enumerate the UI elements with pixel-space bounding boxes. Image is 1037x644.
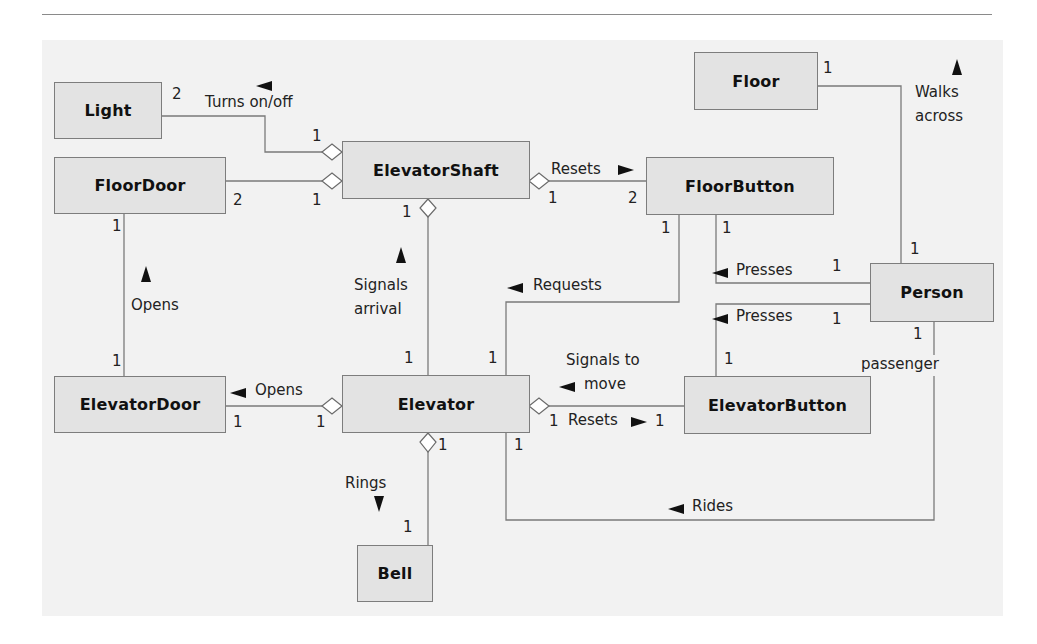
association-label-resets: Resets — [551, 160, 601, 178]
direction-arrow-right-icon — [631, 417, 647, 427]
class-name: ElevatorShaft — [373, 161, 499, 180]
multiplicity: 1 — [402, 204, 412, 220]
multiplicity: 1 — [722, 220, 732, 236]
class-name: Bell — [378, 564, 413, 583]
class-floor-door[interactable]: FloorDoor — [54, 157, 226, 214]
multiplicity: 2 — [233, 192, 243, 208]
multiplicity: 1 — [548, 190, 558, 206]
association-label-arrival: arrival — [354, 300, 402, 318]
direction-arrow-up-icon — [141, 266, 151, 282]
multiplicity: 1 — [913, 326, 923, 342]
class-elevator-shaft[interactable]: ElevatorShaft — [342, 141, 530, 199]
association-label-opens: Opens — [255, 381, 303, 399]
multiplicity: 1 — [312, 128, 322, 144]
association-label-opens: Opens — [131, 296, 179, 314]
direction-arrow-left-icon — [712, 314, 728, 324]
multiplicity: 1 — [404, 350, 414, 366]
direction-arrow-left-icon — [559, 382, 575, 392]
class-elevator-door[interactable]: ElevatorDoor — [54, 376, 226, 433]
multiplicity: 1 — [112, 353, 122, 369]
diamond-icon — [529, 173, 549, 189]
direction-arrow-right-icon — [618, 165, 634, 175]
class-elevator-button[interactable]: ElevatorButton — [684, 376, 871, 434]
class-name: Person — [900, 283, 964, 302]
association-label-walks: Walks — [915, 83, 959, 101]
multiplicity: 2 — [172, 86, 182, 102]
association-label-presses: Presses — [736, 261, 793, 279]
diamond-icon — [322, 144, 342, 160]
direction-arrow-left-icon — [256, 81, 272, 91]
class-name: Elevator — [398, 395, 475, 414]
association-label-presses: Presses — [736, 307, 793, 325]
class-light[interactable]: Light — [54, 82, 162, 139]
direction-arrow-down-icon — [374, 496, 384, 512]
multiplicity: 1 — [549, 413, 559, 429]
multiplicity: 1 — [316, 414, 326, 430]
association-label-requests: Requests — [533, 276, 602, 294]
association-label-rings: Rings — [345, 474, 386, 492]
multiplicity: 1 — [233, 414, 243, 430]
association-label-signals: Signals — [354, 276, 408, 294]
class-floor[interactable]: Floor — [694, 52, 818, 110]
multiplicity: 1 — [832, 258, 842, 274]
multiplicity: 1 — [823, 60, 833, 76]
class-name: ElevatorButton — [708, 396, 847, 415]
multiplicity: 1 — [438, 437, 448, 453]
multiplicity: 1 — [661, 220, 671, 236]
multiplicity: 1 — [488, 350, 498, 366]
direction-arrow-left-icon — [507, 283, 523, 293]
class-name: ElevatorDoor — [80, 395, 201, 414]
direction-arrow-up-icon — [396, 247, 406, 263]
diamond-icon — [529, 398, 549, 414]
association-label-signals-to: Signals to — [566, 351, 640, 369]
multiplicity: 1 — [832, 311, 842, 327]
association-label-move: move — [584, 375, 626, 393]
diamond-icon — [420, 199, 436, 217]
class-floor-button[interactable]: FloorButton — [646, 157, 834, 215]
multiplicity: 1 — [514, 437, 524, 453]
association-label-across: across — [915, 107, 963, 125]
class-name: FloorDoor — [94, 176, 185, 195]
multiplicity: 1 — [655, 413, 665, 429]
class-elevator[interactable]: Elevator — [342, 375, 530, 433]
class-name: FloorButton — [685, 177, 795, 196]
direction-arrow-up-icon — [952, 59, 962, 75]
diamond-icon — [322, 173, 342, 189]
multiplicity: 2 — [628, 190, 638, 206]
association-label-turns-on-off: Turns on/off — [205, 93, 293, 111]
class-bell[interactable]: Bell — [357, 545, 433, 602]
class-person[interactable]: Person — [870, 263, 994, 322]
multiplicity: 1 — [403, 519, 413, 535]
direction-arrow-left-icon — [230, 388, 246, 398]
association-label-rides: Rides — [692, 497, 733, 515]
association-label-resets: Resets — [568, 411, 618, 429]
diamond-icon — [322, 398, 342, 414]
diamond-icon — [420, 433, 436, 452]
multiplicity: 1 — [112, 218, 122, 234]
class-name: Light — [84, 101, 131, 120]
direction-arrow-left-icon — [668, 504, 684, 514]
multiplicity: 1 — [312, 192, 322, 208]
direction-arrow-left-icon — [712, 268, 728, 278]
multiplicity: 1 — [724, 351, 734, 367]
role-label-passenger: passenger — [859, 355, 941, 373]
class-name: Floor — [732, 72, 779, 91]
multiplicity: 1 — [910, 241, 920, 257]
